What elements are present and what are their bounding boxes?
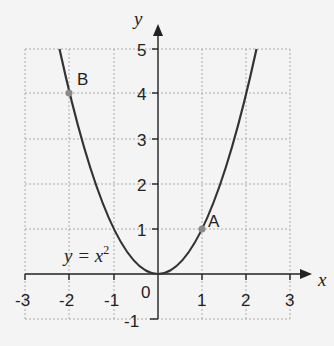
point-a-label: A xyxy=(208,212,220,231)
origin-label: 0 xyxy=(141,283,150,302)
point-b xyxy=(66,90,73,97)
x-axis-label: x xyxy=(317,269,327,290)
parabola-chart: B A y x 5 4 3 2 1 -1 -3 -2 -1 0 1 2 3 y … xyxy=(0,0,334,346)
x-tick-1: 1 xyxy=(197,291,206,310)
y-tick-neg1: -1 xyxy=(124,312,139,331)
y-axis-arrow-icon xyxy=(153,24,163,36)
x-tick-2: 2 xyxy=(241,291,250,310)
x-axis-arrow-icon xyxy=(300,269,312,279)
x-tick-neg3: -3 xyxy=(15,291,30,310)
x-tick-neg2: -2 xyxy=(59,291,74,310)
x-tick-3: 3 xyxy=(285,291,294,310)
y-tick-5: 5 xyxy=(137,41,146,60)
y-tick-1: 1 xyxy=(137,221,146,240)
y-tick-2: 2 xyxy=(137,176,146,195)
x-tick-neg1: -1 xyxy=(104,291,119,310)
y-tick-3: 3 xyxy=(137,131,146,150)
point-b-label: B xyxy=(77,70,88,89)
function-label: y = x2 xyxy=(62,243,109,266)
y-axis-label: y xyxy=(132,8,143,29)
point-a xyxy=(199,226,206,233)
y-tick-4: 4 xyxy=(137,85,146,104)
